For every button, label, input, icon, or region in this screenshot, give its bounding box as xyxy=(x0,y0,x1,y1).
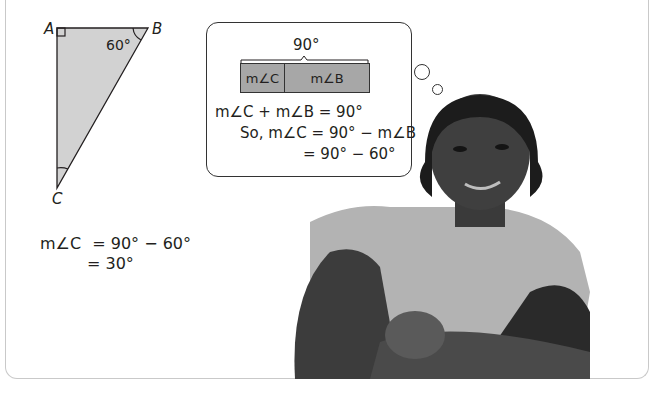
bar-segment-angle-c: m∠C xyxy=(240,63,285,93)
solution-rhs: = 90° − 60° xyxy=(92,234,191,253)
vertex-b-label: B xyxy=(152,20,162,38)
vertex-a-label: A xyxy=(44,20,54,38)
bar-segment-angle-b: m∠B xyxy=(284,63,370,93)
girl-photo xyxy=(290,92,610,379)
right-triangle-diagram xyxy=(40,20,170,200)
bar-segment-label: m∠C xyxy=(246,71,279,86)
bar-segment-label: m∠B xyxy=(310,71,343,86)
solution-line-1: m∠C = 90° − 60° xyxy=(40,234,191,253)
bar-total-label: 90° xyxy=(293,36,320,54)
solution-result: = 30° xyxy=(87,254,134,273)
thought-circle-large xyxy=(414,64,430,80)
solution-lhs: m∠C xyxy=(40,234,81,253)
vertex-c-label: C xyxy=(52,190,62,208)
angle-b-value: 60° xyxy=(106,37,131,53)
solution-line-2: = 30° xyxy=(87,254,134,273)
